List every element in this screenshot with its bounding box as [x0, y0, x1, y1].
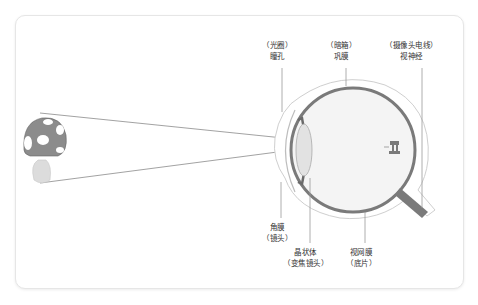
label-retina-analogy: （底片） [346, 258, 376, 269]
mushroom-icon [24, 118, 67, 183]
label-cornea-analogy: （镜头） [262, 233, 292, 244]
label-optic-nerve: （摄像头电线） 视神经 [385, 40, 438, 62]
label-pupil: （光圈） 瞳孔 [262, 40, 292, 62]
label-retina: 视网膜 （底片） [346, 247, 376, 269]
label-lens-name: 晶状体 [283, 247, 328, 258]
label-optic-nerve-analogy: （摄像头电线） [385, 40, 438, 51]
label-sclera-name: 巩膜 [326, 51, 356, 62]
label-cornea-name: 角膜 [262, 222, 292, 233]
label-pupil-analogy: （光圈） [262, 40, 292, 51]
label-sclera: （暗箱） 巩膜 [326, 40, 356, 62]
eye-icon [274, 80, 435, 219]
label-lens: 晶状体 （变焦镜头） [283, 247, 328, 269]
label-pupil-name: 瞳孔 [262, 51, 292, 62]
label-retina-name: 视网膜 [346, 247, 376, 258]
label-sclera-analogy: （暗箱） [326, 40, 356, 51]
label-lens-analogy: （变焦镜头） [283, 258, 328, 269]
label-optic-nerve-name: 视神经 [385, 51, 438, 62]
label-cornea: 角膜 （镜头） [262, 222, 292, 244]
